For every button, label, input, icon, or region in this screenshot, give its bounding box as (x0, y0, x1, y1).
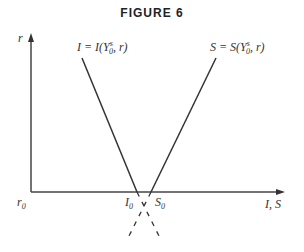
x-axis-arrow-icon (276, 189, 285, 195)
y-axis-label: r (18, 31, 23, 45)
s0-label: S0 (155, 195, 165, 211)
x-axis-label: I, S (264, 197, 281, 211)
figure-title: FIGURE 6 (120, 6, 183, 20)
figure-6-diagram: FIGURE 6 r I, S r0 I = I(Ys0, r) S = S(Y… (0, 0, 304, 252)
saving-line-extension (127, 192, 151, 240)
origin-label: r0 (17, 195, 26, 211)
y-axis-arrow-icon (28, 33, 34, 42)
saving-line (151, 58, 216, 192)
saving-curve-label: S = S(Ys0, r) (210, 39, 265, 56)
i0-label: I0 (124, 195, 133, 211)
investment-line (82, 58, 137, 192)
investment-curve-label: I = I(Ys0, r) (76, 39, 128, 56)
